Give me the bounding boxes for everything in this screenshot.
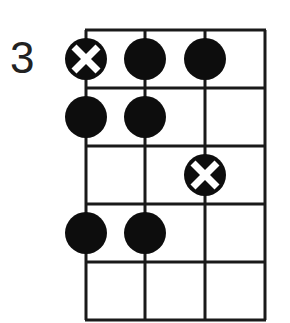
note-dot bbox=[65, 212, 107, 254]
note-dot bbox=[65, 96, 107, 138]
fretboard-diagram bbox=[0, 0, 290, 323]
note-dot bbox=[124, 212, 166, 254]
note-dot bbox=[124, 96, 166, 138]
note-dot bbox=[184, 38, 226, 80]
note-dot bbox=[124, 38, 166, 80]
